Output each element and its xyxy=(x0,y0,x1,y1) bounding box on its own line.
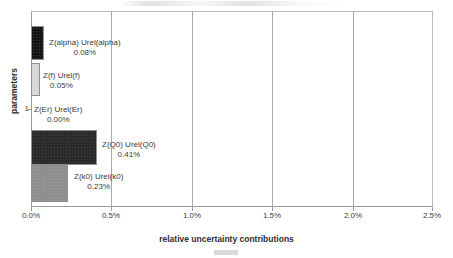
y-tick-label-0: 1 xyxy=(21,104,29,113)
scan-artifact-bottom xyxy=(214,250,238,255)
gridline-1.5 xyxy=(272,11,273,207)
data-label-value: 0.23% xyxy=(74,182,123,192)
bar-z-alpha xyxy=(31,26,44,60)
x-tick-label-3: 1.5% xyxy=(252,211,292,220)
data-label-name: Z(Q0) Urel(Q0) xyxy=(102,140,156,150)
data-label-z-q0: Z(Q0) Urel(Q0) 0.41% xyxy=(102,140,156,160)
gridline-2.0 xyxy=(353,11,354,207)
data-label-z-k0: Z(k0) Urel(k0) 0.23% xyxy=(74,172,123,192)
data-label-z-alpha: Z(alpha) Urel(alpha) 0.08% xyxy=(49,38,121,58)
x-tick-label-2: 1.0% xyxy=(172,211,212,220)
bar-z-f xyxy=(31,63,40,96)
x-tick-label-0: 0.0% xyxy=(11,211,51,220)
data-label-value: 0.41% xyxy=(102,150,156,160)
y-axis-title: parameters xyxy=(9,51,19,131)
x-tick-label-5: 2.5% xyxy=(412,211,452,220)
uncertainty-contributions-bar-chart: Z(alpha) Urel(alpha) 0.08% Z(f) Urel(f) … xyxy=(0,0,453,258)
data-label-z-er: Z(Er) Urel(Er) 0.00% xyxy=(34,105,82,125)
x-axis-title: relative uncertainty contributions xyxy=(0,234,453,244)
plot-border-top xyxy=(31,11,433,12)
data-label-z-f: Z(f) Urel(f) 0.05% xyxy=(43,71,80,91)
data-label-value: 0.08% xyxy=(49,48,121,58)
data-label-value: 0.00% xyxy=(34,115,82,125)
x-tick-label-4: 2.0% xyxy=(333,211,373,220)
data-label-name: Z(f) Urel(f) xyxy=(43,71,80,81)
data-label-value: 0.05% xyxy=(43,81,80,91)
x-tick-label-1: 0.5% xyxy=(91,211,131,220)
data-label-name: Z(k0) Urel(k0) xyxy=(74,172,123,182)
scan-artifact-top xyxy=(120,1,350,6)
bar-z-q0 xyxy=(31,130,97,165)
gridline-1.0 xyxy=(192,11,193,207)
data-label-name: Z(Er) Urel(Er) xyxy=(34,105,82,115)
data-label-name: Z(alpha) Urel(alpha) xyxy=(49,38,121,48)
bar-z-k0 xyxy=(31,165,68,202)
plot-border-right xyxy=(432,11,433,207)
